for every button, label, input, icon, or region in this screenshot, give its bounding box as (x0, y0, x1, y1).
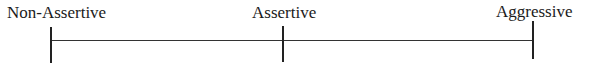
tick-aggressive (532, 21, 534, 59)
label-aggressive: Aggressive (496, 2, 572, 22)
label-non-assertive: Non-Assertive (7, 3, 106, 23)
tick-assertive (282, 26, 284, 62)
continuum-line (51, 40, 533, 41)
label-assertive: Assertive (252, 3, 316, 23)
tick-non-assertive (50, 27, 52, 63)
